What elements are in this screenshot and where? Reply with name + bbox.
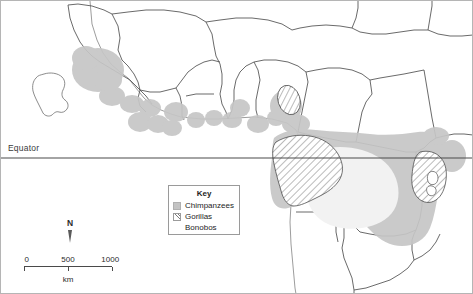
scale-tick-500: [68, 267, 69, 271]
legend-label-bonobos: Bonobos: [185, 222, 217, 233]
legend-swatch-bonobos: [173, 224, 181, 232]
north-arrow-label: N: [62, 219, 78, 228]
scale-tick-label-1000: 1000: [101, 255, 119, 264]
legend-swatch-chimpanzees: [173, 202, 181, 210]
map-canvas: [0, 0, 473, 294]
scale-tick-label-500: 500: [61, 255, 74, 264]
chimp-patch-senegal: [72, 46, 100, 70]
north-arrow-icon: [68, 230, 72, 243]
scale-tick-label-0: 0: [24, 255, 28, 264]
scale-bar-line: [24, 266, 112, 273]
lake-edward: [427, 186, 437, 196]
africa-inset-outline: [33, 73, 68, 116]
scale-tick-0: [24, 267, 25, 271]
africa-inset-outline-layer: [33, 73, 68, 116]
scale-bar-unit: km: [24, 275, 112, 284]
scale-bar-numbers: 0 500 1000: [24, 255, 112, 265]
legend-item-gorillas: Gorillas: [173, 211, 235, 222]
chimp-patch-nigeria-w: [230, 99, 250, 117]
legend-item-chimpanzees: Chimpanzees: [173, 200, 235, 211]
equator-label: Equator: [8, 143, 39, 153]
chimp-patch-ivory: [164, 102, 188, 122]
legend-label-chimpanzees: Chimpanzees: [185, 200, 234, 211]
chimp-patch-guinea-s: [94, 69, 122, 91]
chimp-patch-uganda: [423, 127, 449, 145]
chimp-patch-nigeria-e: [247, 115, 269, 133]
distribution-map: Equator Key Chimpanzees Gorillas Bonobos…: [0, 0, 473, 294]
chimp-patch-togo: [205, 110, 223, 126]
legend-label-gorillas: Gorillas: [185, 211, 212, 222]
north-arrow: N: [62, 219, 78, 243]
legend-swatch-gorillas: [173, 213, 181, 221]
chimp-patch-ivory-s: [162, 120, 182, 136]
lake-kivu: [427, 171, 438, 184]
legend-title: Key: [173, 189, 235, 199]
scale-tick-1000: [112, 267, 113, 271]
map-legend: Key Chimpanzees Gorillas Bonobos: [168, 185, 240, 235]
chimp-patch-ghana: [187, 112, 205, 128]
scale-bar: 0 500 1000 km: [24, 255, 112, 281]
legend-item-bonobos: Bonobos: [173, 222, 235, 233]
